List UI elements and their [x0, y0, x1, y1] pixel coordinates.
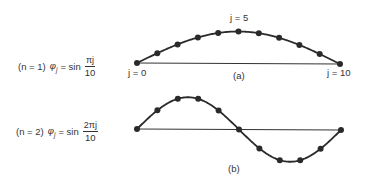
sample-point [216, 108, 222, 114]
caption-b: (b) [228, 163, 240, 174]
sample-point [296, 42, 302, 48]
caption-a: (a) [233, 70, 245, 81]
sample-point [215, 30, 221, 36]
sine-curve-n1 [134, 29, 343, 68]
sample-point [134, 126, 140, 132]
numerator: πj [85, 56, 95, 67]
sample-point [276, 35, 282, 41]
sample-point [277, 157, 283, 163]
sample-point [195, 34, 201, 40]
denominator: 10 [85, 132, 96, 143]
diagram-canvas [0, 0, 373, 191]
panel-a [134, 29, 343, 68]
sample-point [297, 157, 303, 163]
sample-point [256, 30, 262, 36]
sample-point [154, 107, 160, 113]
sample-point [256, 145, 262, 151]
sample-point [236, 29, 242, 35]
equation-mode: (n = 1) [18, 61, 46, 72]
equation-eq: = sin [58, 126, 78, 137]
sample-point [317, 51, 323, 57]
sample-point [338, 127, 344, 133]
equation-mode: (n = 2) [16, 126, 44, 137]
equation-eq: = sin [60, 61, 80, 72]
equation-n2: (n = 2) φj = sin 2πj 10 [16, 121, 98, 143]
sample-point [154, 50, 160, 56]
sample-point [175, 96, 181, 102]
fraction: 2πj 10 [83, 121, 98, 143]
label-j5: j = 5 [230, 12, 248, 23]
equation-n1: (n = 1) φj = sin πj 10 [18, 56, 95, 78]
sample-point [195, 96, 201, 102]
label-j10: j = 10 [327, 67, 351, 78]
sample-point [318, 146, 324, 152]
sample-point [236, 127, 242, 133]
label-j0: j = 0 [128, 67, 146, 78]
sample-point [175, 41, 181, 47]
panel-b [134, 96, 344, 163]
denominator: 10 [85, 67, 96, 78]
baseline-a [137, 63, 340, 64]
numerator: 2πj [83, 121, 98, 132]
sample-point [134, 60, 140, 66]
fraction: πj 10 [85, 56, 96, 78]
